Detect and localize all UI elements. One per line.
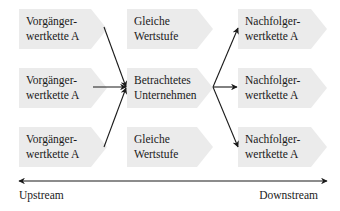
arrow-focal-to-succ1: [213, 28, 238, 87]
upstream-label: Upstream: [19, 189, 64, 201]
arrow-focal-to-succ3: [213, 87, 238, 147]
arrows-layer: [0, 0, 340, 211]
arrow-pred1-to-focal: [104, 27, 126, 87]
arrow-pred3-to-focal: [104, 88, 126, 147]
downstream-label: Downstream: [259, 189, 318, 201]
